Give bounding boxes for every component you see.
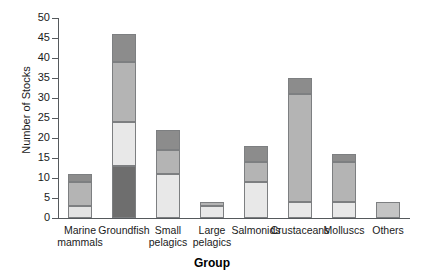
y-axis-tick-label: 5 [10, 192, 50, 203]
y-axis-tick [52, 178, 58, 179]
bar-segment [112, 62, 136, 122]
y-axis-tick-label: 50 [10, 12, 50, 23]
bar-segment [68, 174, 92, 182]
bar-segment [112, 166, 136, 218]
bar-segment [288, 94, 312, 202]
bar-segment [332, 202, 356, 218]
y-axis-tick [52, 218, 58, 219]
y-axis-tick-label: 25 [10, 112, 50, 123]
bar [68, 174, 92, 218]
bar [156, 130, 180, 218]
x-axis-line [58, 218, 410, 219]
bar-segment [156, 174, 180, 218]
y-axis-tick [52, 158, 58, 159]
bar [200, 202, 224, 218]
bar-segment [200, 202, 224, 206]
y-axis-tick-label: 35 [10, 72, 50, 83]
bar-segment [200, 206, 224, 218]
y-axis-tick-label: 45 [10, 32, 50, 43]
y-axis-tick [52, 18, 58, 19]
y-axis-tick [52, 138, 58, 139]
plot-area: 05101520253035404550 [58, 18, 410, 218]
bar [332, 154, 356, 218]
bar-segment [288, 202, 312, 218]
stacked-bar-chart: Number of Stocks 05101520253035404550 Ma… [0, 0, 424, 280]
y-axis-tick-label: 30 [10, 92, 50, 103]
x-axis-title: Group [0, 256, 424, 270]
bar-segment [68, 206, 92, 218]
bar-segment [156, 150, 180, 174]
bar-segment [112, 34, 136, 62]
bar [376, 202, 400, 218]
y-axis-tick-label: 15 [10, 152, 50, 163]
y-axis-tick [52, 118, 58, 119]
bar-segment [244, 182, 268, 218]
bar [112, 34, 136, 218]
y-axis-tick [52, 198, 58, 199]
y-axis-tick-label: 20 [10, 132, 50, 143]
y-axis-tick-label: 0 [10, 212, 50, 223]
bar-segment [332, 162, 356, 202]
bar [288, 78, 312, 218]
bar-segment [244, 146, 268, 162]
y-axis-tick [52, 98, 58, 99]
bar-segment [332, 154, 356, 162]
y-axis-tick [52, 78, 58, 79]
y-axis-tick-label: 40 [10, 52, 50, 63]
bar [244, 146, 268, 218]
y-axis-tick [52, 38, 58, 39]
bar-segment [112, 122, 136, 166]
bar-segment [68, 182, 92, 206]
y-axis-tick [52, 58, 58, 59]
x-axis-category-label: Others [343, 224, 424, 236]
y-axis-line [58, 18, 59, 218]
bar-segment [156, 130, 180, 150]
bar-segment [376, 202, 400, 218]
bar-segment [244, 162, 268, 182]
y-axis-tick-label: 10 [10, 172, 50, 183]
bar-segment [288, 78, 312, 94]
